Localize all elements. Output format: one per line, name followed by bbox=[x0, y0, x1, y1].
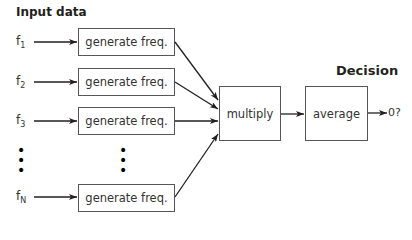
input-label-fN: fN bbox=[16, 189, 26, 205]
input-label-f1: f1 bbox=[16, 34, 25, 50]
generate-freq-box-1: generate freq. bbox=[78, 28, 175, 56]
decision-output: 0? bbox=[388, 106, 401, 119]
generate-freq-box-3: generate freq. bbox=[78, 107, 175, 135]
generate-freq-box-2: generate freq. bbox=[78, 68, 175, 96]
generate-freq-box-n: generate freq. bbox=[78, 184, 175, 212]
input-ellipsis: ••• bbox=[17, 145, 25, 175]
average-box: average bbox=[305, 86, 368, 141]
multiply-box: multiply bbox=[219, 86, 281, 141]
generator-ellipsis: ••• bbox=[119, 145, 127, 175]
input-label-f3: f3 bbox=[16, 113, 25, 129]
input-label-f2: f2 bbox=[16, 74, 25, 90]
